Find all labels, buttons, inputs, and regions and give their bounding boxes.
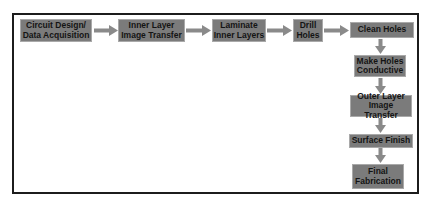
step-outer-layer-image-transfer: Outer Layer Image Transfer bbox=[350, 95, 412, 117]
step-laminate-inner-layers: Laminate Inner Layers bbox=[212, 19, 266, 42]
step-surface-finish: Surface Finish bbox=[349, 134, 413, 148]
arrow-right-icon bbox=[267, 25, 292, 36]
arrow-right-icon bbox=[186, 25, 211, 36]
step-clean-holes: Clean Holes bbox=[350, 22, 414, 38]
arrow-right-icon bbox=[324, 25, 349, 36]
step-circuit-design: Circuit Design/ Data Acquisition bbox=[20, 19, 92, 42]
arrow-down-icon bbox=[375, 78, 386, 94]
arrow-down-icon bbox=[375, 148, 386, 163]
step-final-fabrication: Final Fabrication bbox=[352, 164, 404, 189]
step-inner-layer-image-transfer: Inner Layer Image Transfer bbox=[118, 19, 185, 42]
arrow-right-icon bbox=[94, 25, 118, 36]
step-drill-holes: Drill Holes bbox=[293, 19, 323, 42]
arrow-down-icon bbox=[375, 118, 386, 133]
step-make-holes-conductive: Make Holes Conductive bbox=[354, 55, 406, 77]
arrow-down-icon bbox=[375, 39, 386, 54]
